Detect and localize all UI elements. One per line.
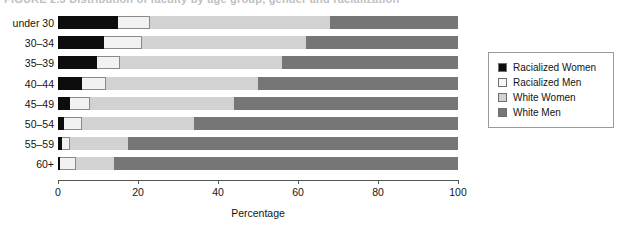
x-axis-tick-label: 0	[55, 186, 61, 198]
y-axis-label: 40–44	[0, 78, 54, 90]
x-axis-tick-label: 20	[132, 186, 144, 198]
legend-label: Racialized Women	[513, 62, 596, 73]
bar-segment	[70, 97, 90, 110]
bar-segment	[142, 36, 306, 49]
legend-item: Racialized Women	[498, 60, 605, 75]
bar-row	[58, 117, 458, 130]
x-axis-title: Percentage	[58, 207, 458, 219]
bar-segment	[62, 137, 70, 150]
x-axis-tick-label: 60	[292, 186, 304, 198]
bar-segment	[76, 157, 114, 170]
bar-segment	[150, 16, 330, 29]
bar-segment	[58, 77, 82, 90]
legend-label: White Women	[513, 92, 576, 103]
x-axis-tick	[298, 180, 299, 184]
bar-segment	[118, 16, 150, 29]
x-axis-tick	[58, 180, 59, 184]
y-axis-label: 55–59	[0, 138, 54, 150]
bar-segment	[58, 97, 70, 110]
legend-item: Racialized Men	[498, 75, 605, 90]
bar-row	[58, 97, 458, 110]
x-axis-tick-label: 40	[212, 186, 224, 198]
bar-segment	[64, 117, 82, 130]
x-axis-tick	[458, 180, 459, 184]
x-axis-tick-label: 100	[449, 186, 467, 198]
bar-segment	[306, 36, 458, 49]
bar-segment	[60, 157, 76, 170]
chart-legend: Racialized WomenRacialized MenWhite Wome…	[488, 52, 614, 128]
legend-swatch-icon	[498, 93, 507, 102]
legend-label: Racialized Men	[513, 77, 581, 88]
legend-swatch-icon	[498, 63, 507, 72]
figure-container: FIGURE 2.3 Distribution of faculty by ag…	[0, 0, 621, 240]
legend-item: White Women	[498, 90, 605, 105]
bar-segment	[104, 36, 142, 49]
bar-segment	[128, 137, 458, 150]
bar-segment	[282, 56, 458, 69]
y-axis-label: 45–49	[0, 98, 54, 110]
bar-row	[58, 157, 458, 170]
x-axis-tick	[138, 180, 139, 184]
legend-swatch-icon	[498, 108, 507, 117]
bar-row	[58, 137, 458, 150]
bar-segment	[258, 77, 458, 90]
bar-segment	[70, 137, 128, 150]
bar-segment	[82, 117, 194, 130]
x-axis-tick	[218, 180, 219, 184]
bar-segment	[194, 117, 458, 130]
bar-row	[58, 16, 458, 29]
bar-segment	[90, 97, 234, 110]
bar-segment	[330, 16, 458, 29]
bar-segment	[58, 36, 104, 49]
bar-segment	[82, 77, 106, 90]
bar-row	[58, 36, 458, 49]
bar-row	[58, 56, 458, 69]
y-axis-label: 30–34	[0, 37, 54, 49]
y-axis-label: under 30	[0, 17, 54, 29]
y-axis-label: 35–39	[0, 57, 54, 69]
bar-segment	[234, 97, 458, 110]
x-axis-line	[58, 180, 459, 181]
bar-segment	[58, 16, 118, 29]
figure-title: FIGURE 2.3 Distribution of faculty by ag…	[4, 0, 399, 5]
bar-segment	[58, 56, 97, 69]
bar-segment	[120, 56, 282, 69]
bar-row	[58, 77, 458, 90]
plot-area	[58, 16, 458, 180]
bar-segment	[114, 157, 458, 170]
legend-swatch-icon	[498, 78, 507, 87]
legend-label: White Men	[513, 107, 561, 118]
x-axis-tick	[378, 180, 379, 184]
x-axis-tick-label: 80	[372, 186, 384, 198]
bar-segment	[106, 77, 258, 90]
bar-segment	[97, 56, 120, 69]
legend-item: White Men	[498, 105, 605, 120]
y-axis-label: 60+	[0, 158, 54, 170]
y-axis-label: 50–54	[0, 118, 54, 130]
